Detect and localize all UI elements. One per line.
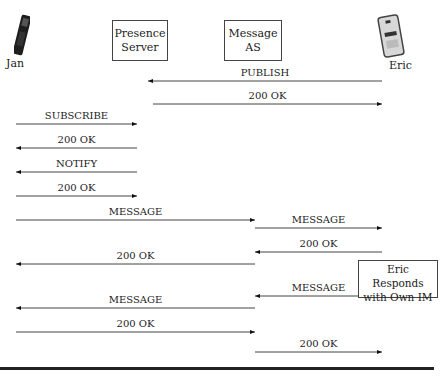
arrowhead-icon xyxy=(132,194,137,198)
arrowhead-icon xyxy=(148,79,153,83)
message-label: 200 OK xyxy=(117,318,155,329)
message-label: SUBSCRIBE xyxy=(45,110,108,121)
eric-responds-note: Eric Responds with Own IM xyxy=(358,260,438,298)
message-label: 200 OK xyxy=(249,90,287,101)
message-label: MESSAGE xyxy=(292,282,346,293)
bottom-rule xyxy=(0,367,434,370)
arrowhead-icon xyxy=(250,218,255,222)
message-label: 200 OK xyxy=(58,134,96,145)
message-label: 200 OK xyxy=(300,338,338,349)
note-line2: with Own IM xyxy=(361,290,435,304)
note-line1: Eric Responds xyxy=(361,262,435,290)
message-label: PUBLISH xyxy=(241,67,290,78)
message-label: MESSAGE xyxy=(292,214,346,225)
arrowhead-icon xyxy=(255,294,260,298)
message-label: MESSAGE xyxy=(109,294,163,305)
message-label: 200 OK xyxy=(58,182,96,193)
arrowhead-icon xyxy=(377,102,382,106)
arrowhead-icon xyxy=(377,226,382,230)
arrowhead-icon xyxy=(250,330,255,334)
arrowhead-icon xyxy=(16,170,21,174)
message-label: MESSAGE xyxy=(109,206,163,217)
arrowhead-icon xyxy=(255,250,260,254)
arrowhead-icon xyxy=(16,146,21,150)
arrowhead-icon xyxy=(16,306,21,310)
message-label: 200 OK xyxy=(300,238,338,249)
message-label: NOTIFY xyxy=(56,158,97,169)
message-label: 200 OK xyxy=(117,250,155,261)
arrowhead-icon xyxy=(377,350,382,354)
arrowhead-icon xyxy=(16,262,21,266)
arrowhead-icon xyxy=(132,122,137,126)
